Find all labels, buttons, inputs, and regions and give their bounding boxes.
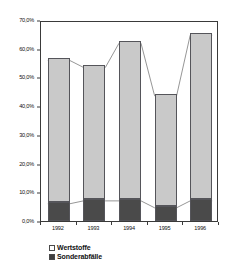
y-tick-label: 40,0% [0, 104, 38, 110]
legend-swatch-icon-wertstoffe [49, 245, 55, 251]
legend-item-sonderabfaelle[interactable]: Sonderabfälle [49, 253, 102, 260]
bar-segment-wertstoffe-1993 [83, 65, 105, 199]
x-tick-mark [40, 222, 41, 225]
x-tick-mark [218, 222, 219, 225]
x-tick-mark [76, 222, 77, 225]
x-tick-mark [182, 222, 183, 225]
y-tick-label: 70,0% [0, 18, 38, 24]
y-tick-mark [37, 135, 40, 136]
x-tick-mark [111, 222, 112, 225]
y-tick-label: 20,0% [0, 162, 38, 168]
y-tick-mark [37, 78, 40, 79]
y-tick-label: 10,0% [0, 190, 38, 196]
bar-segment-sonderabfaelle-1992 [48, 202, 70, 221]
x-tick-label: 1994 [123, 226, 135, 232]
y-tick-label: 60,0% [0, 47, 38, 53]
bar-segment-sonderabfaelle-1993 [83, 199, 105, 221]
plot-inner [41, 22, 217, 221]
bar-stack-1994 [119, 41, 141, 221]
bar-segment-wertstoffe-1994 [119, 41, 141, 199]
bar-stack-1992 [48, 58, 70, 221]
bar-segment-sonderabfaelle-1994 [119, 199, 141, 221]
bar-segment-wertstoffe-1992 [48, 58, 70, 201]
bar-segment-wertstoffe-1995 [155, 94, 177, 206]
plot-area [40, 21, 218, 222]
y-tick-mark [37, 49, 40, 50]
bar-stack-1995 [155, 94, 177, 221]
bar-segment-sonderabfaelle-1995 [155, 206, 177, 221]
y-tick-label: 30,0% [0, 133, 38, 139]
x-tick-label: 1995 [159, 226, 171, 232]
bar-stack-1996 [190, 33, 212, 221]
y-tick-label: 0,0% [0, 219, 38, 225]
chart-container: 70,0%60,0%50,0%40,0%30,0%20,0%10,0%0,0% … [0, 0, 238, 276]
y-tick-mark [37, 164, 40, 165]
legend-swatch-icon-sonderabfaelle [49, 254, 55, 260]
y-tick-mark [37, 21, 40, 22]
x-tick-label: 1993 [88, 226, 100, 232]
bar-stack-1993 [83, 65, 105, 221]
y-tick-label: 50,0% [0, 76, 38, 82]
bar-segment-sonderabfaelle-1996 [190, 199, 212, 221]
y-tick-mark [37, 107, 40, 108]
bar-segment-wertstoffe-1996 [190, 33, 212, 199]
chart-legend: Wertstoffe Sonderabfälle [49, 244, 102, 260]
legend-label-sonderabfaelle: Sonderabfälle [57, 253, 102, 260]
legend-item-wertstoffe[interactable]: Wertstoffe [49, 244, 102, 251]
y-tick-mark [37, 193, 40, 194]
x-tick-label: 1992 [52, 226, 64, 232]
x-tick-mark [147, 222, 148, 225]
legend-label-wertstoffe: Wertstoffe [57, 244, 90, 251]
x-tick-label: 1996 [194, 226, 206, 232]
